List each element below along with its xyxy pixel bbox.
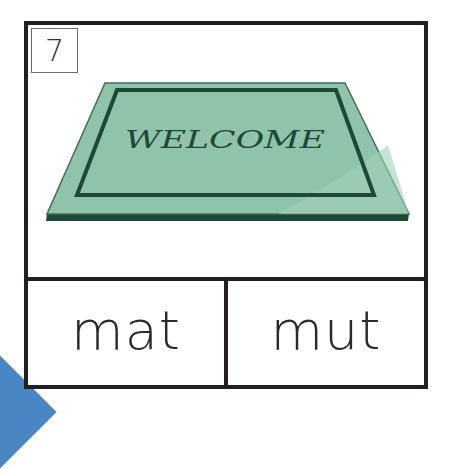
mat-text: WELCOME <box>125 126 326 154</box>
choice-row: mat mut <box>28 281 424 385</box>
picture-area: 7 WELCOME <box>28 25 424 281</box>
choice-mut[interactable]: mut <box>228 281 424 385</box>
choice-mat[interactable]: mat <box>28 281 228 385</box>
word-picture-card: 7 WELCOME mat mut <box>24 21 428 389</box>
welcome-mat-image: WELCOME <box>28 25 424 277</box>
